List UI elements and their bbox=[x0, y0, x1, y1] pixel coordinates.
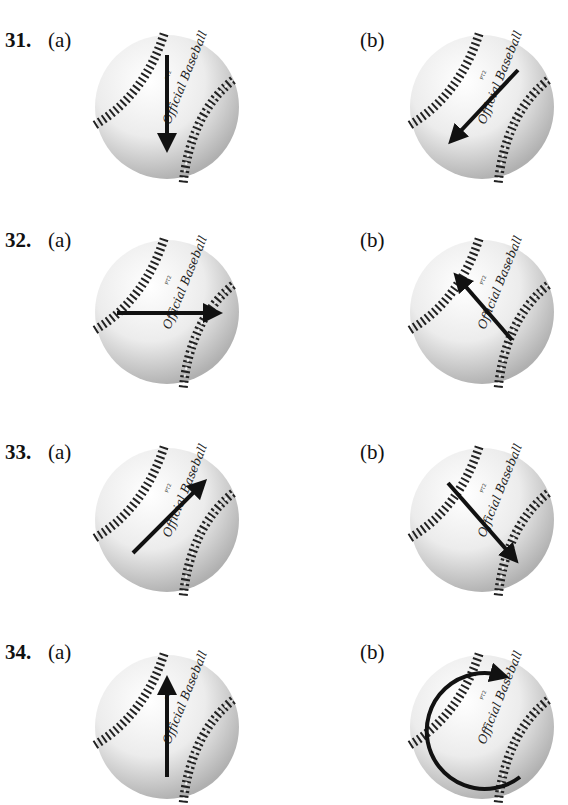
problem-33: 33. (a) (b) bbox=[0, 400, 568, 600]
part-a-label: (a) bbox=[48, 228, 71, 253]
baseball-figure-b bbox=[400, 25, 560, 185]
baseball-figure-a bbox=[85, 230, 245, 390]
part-a-label: (a) bbox=[48, 440, 71, 465]
part-a-label: (a) bbox=[48, 640, 71, 665]
baseball-figure-a bbox=[85, 438, 245, 598]
problem-number: 32. bbox=[5, 228, 31, 253]
baseball-figure-b bbox=[400, 438, 560, 598]
problem-31: 31. (a) (b) bbox=[0, 0, 568, 200]
part-b-label: (b) bbox=[360, 440, 385, 465]
part-b-label: (b) bbox=[360, 640, 385, 665]
baseball-figure-a bbox=[85, 645, 245, 805]
problem-32: 32. (a) (b) bbox=[0, 200, 568, 400]
problem-number: 31. bbox=[5, 28, 31, 53]
baseball-figure-b bbox=[400, 230, 560, 390]
part-a-label: (a) bbox=[48, 28, 71, 53]
part-b-label: (b) bbox=[360, 28, 385, 53]
problem-34: 34. (a) (b) bbox=[0, 600, 568, 802]
problem-number: 34. bbox=[5, 640, 31, 665]
baseball-figure-b bbox=[400, 645, 560, 805]
baseball-figure-a bbox=[85, 25, 245, 185]
part-b-label: (b) bbox=[360, 228, 385, 253]
problem-number: 33. bbox=[5, 440, 31, 465]
